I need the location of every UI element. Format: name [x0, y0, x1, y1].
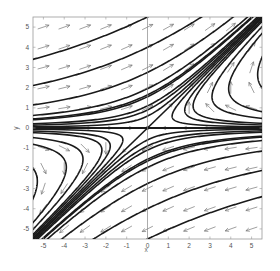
y-tick-label: -4 [23, 205, 29, 212]
y-tick-label: 5 [25, 23, 29, 30]
y-tick-label: 3 [25, 64, 29, 71]
x-tick-label: 4 [229, 242, 233, 249]
y-axis-label: y [12, 126, 20, 130]
x-tick-label: 1 [167, 242, 171, 249]
x-tick-label: -3 [82, 242, 88, 249]
x-tick-label: -4 [61, 242, 67, 249]
x-tick-label: 5 [250, 242, 254, 249]
y-tick-label: -5 [23, 225, 29, 232]
y-tick-label: -1 [23, 144, 29, 151]
y-tick-label: -2 [23, 165, 29, 172]
y-tick-label: 2 [25, 84, 29, 91]
x-tick-label: -1 [124, 242, 130, 249]
y-tick-label: 4 [25, 44, 29, 51]
x-tick-label: 2 [187, 242, 191, 249]
y-tick-label: -3 [23, 185, 29, 192]
y-tick-label: 1 [25, 104, 29, 111]
x-tick-label: -5 [41, 242, 47, 249]
x-tick-label: -2 [103, 242, 109, 249]
phase-portrait-chart: -5-4-3-2-1012345-5-4-3-2-1012345 x y [0, 0, 280, 271]
y-tick-label: 0 [25, 124, 29, 131]
x-tick-label: 3 [208, 242, 212, 249]
